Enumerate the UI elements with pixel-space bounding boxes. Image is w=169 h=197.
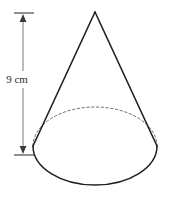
dimension-arrowhead-down-icon [20,146,27,154]
cone-diagram: 9 cm [0,0,169,197]
cone-left-slant-edge-icon [33,12,95,146]
height-dimension-label: 9 cm [2,72,32,86]
cone-diagram-svg [0,0,169,197]
dimension-arrowhead-up-icon [20,14,27,22]
base-ellipse-hidden-arc-icon [33,107,157,146]
base-ellipse-visible-arc-icon [33,146,157,185]
cone-right-slant-edge-icon [95,12,157,146]
